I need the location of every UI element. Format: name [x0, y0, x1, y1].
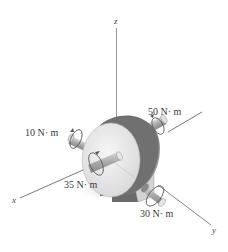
z-axis-label: z — [114, 17, 118, 26]
moment-50-label: 50 N· m — [148, 107, 181, 117]
moment-30-label: 30 N· m — [140, 209, 173, 219]
y-axis-line — [158, 185, 211, 225]
y-axis-label: y — [212, 226, 216, 235]
x-axis-label: x — [12, 196, 16, 205]
gearbox-moment-diagram: z x y 50 N· m 10 N· m 35 N· m 30 N· m — [0, 0, 228, 252]
diagram-graphic — [0, 0, 228, 252]
moment-35-label: 35 N· m — [64, 180, 97, 190]
moment-10-label: 10 N· m — [25, 128, 58, 138]
